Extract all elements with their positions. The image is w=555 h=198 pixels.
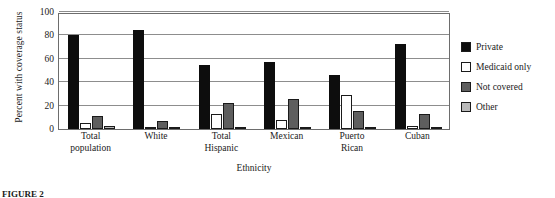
x-axis-tick-label: Mexican xyxy=(254,131,319,143)
x-axis-tick-label: TotalHispanic xyxy=(189,131,254,154)
bar-other xyxy=(235,127,246,129)
y-axis-title: Percent with coverage status xyxy=(14,2,24,132)
x-axis-tick-label-line: Total xyxy=(189,131,254,143)
bar-notcovered xyxy=(223,103,234,129)
bar-private xyxy=(133,30,144,129)
x-axis-title: Ethnicity xyxy=(58,163,450,173)
bar-group xyxy=(386,14,451,129)
bar-group xyxy=(255,14,320,129)
plot-area xyxy=(58,13,450,130)
legend-swatch-other xyxy=(461,102,471,112)
x-axis-tick-label-line: White xyxy=(123,131,188,143)
y-axis-tick-label: 100 xyxy=(30,8,54,18)
y-axis-tick-labels: 020406080100 xyxy=(26,13,54,130)
bar-notcovered xyxy=(353,111,364,129)
bar-group xyxy=(124,14,189,129)
y-axis-tick-label: 0 xyxy=(30,125,54,135)
bar-other xyxy=(365,127,376,129)
bar-medicaid xyxy=(145,127,156,129)
legend-item-private: Private xyxy=(461,38,555,55)
x-axis-tick-label: Cuban xyxy=(385,131,450,143)
x-axis-tick-label-line: Hispanic xyxy=(189,143,254,155)
legend-label-medicaid: Medicaid only xyxy=(476,62,531,72)
legend-swatch-notcovered xyxy=(461,82,471,92)
bar-medicaid xyxy=(341,95,352,129)
legend-label-notcovered: Not covered xyxy=(476,82,523,92)
legend-label-other: Other xyxy=(476,102,498,112)
legend-label-private: Private xyxy=(476,42,503,52)
x-axis-tick-label: Totalpopulation xyxy=(58,131,123,154)
bar-notcovered xyxy=(288,99,299,129)
bar-medicaid xyxy=(407,126,418,130)
x-axis-tick-label: White xyxy=(123,131,188,143)
bar-medicaid xyxy=(80,123,91,129)
x-axis-tick-label-line: Cuban xyxy=(385,131,450,143)
x-axis-tick-label-line: population xyxy=(58,143,123,155)
bar-private xyxy=(329,75,340,129)
bar-group xyxy=(190,14,255,129)
x-axis-tick-label-line: Mexican xyxy=(254,131,319,143)
bar-notcovered xyxy=(157,121,168,129)
bar-medicaid xyxy=(211,114,222,129)
legend-swatch-private xyxy=(461,42,471,52)
y-axis-tick-label: 80 xyxy=(30,32,54,42)
x-axis-tick-label-line: Total xyxy=(58,131,123,143)
y-axis-tick-label: 60 xyxy=(30,55,54,65)
bar-private xyxy=(68,35,79,129)
x-axis-tick-labels: TotalpopulationWhiteTotalHispanicMexican… xyxy=(58,131,450,165)
legend-swatch-medicaid xyxy=(461,62,471,72)
bar-medicaid xyxy=(276,120,287,129)
figure-container: Percent with coverage status 02040608010… xyxy=(0,0,555,198)
bar-private xyxy=(264,62,275,129)
legend-item-other: Other xyxy=(461,98,555,115)
chart-legend: PrivateMedicaid onlyNot coveredOther xyxy=(461,38,555,118)
gridline xyxy=(59,11,449,12)
bar-other xyxy=(300,127,311,129)
bar-other xyxy=(104,126,115,130)
x-axis-tick-label: PuertoRican xyxy=(319,131,384,154)
bar-private xyxy=(199,65,210,129)
y-axis-tick-label: 40 xyxy=(30,78,54,88)
y-axis-tick-label: 20 xyxy=(30,102,54,112)
x-axis-tick-label-line: Rican xyxy=(319,143,384,155)
bar-other xyxy=(169,127,180,129)
bar-group xyxy=(320,14,385,129)
legend-item-medicaid: Medicaid only xyxy=(461,58,555,75)
bar-private xyxy=(395,44,406,129)
bar-other xyxy=(431,127,442,129)
figure-caption: FIGURE 2 xyxy=(2,189,44,198)
bar-group xyxy=(59,14,124,129)
bar-notcovered xyxy=(92,116,103,129)
legend-item-notcovered: Not covered xyxy=(461,78,555,95)
bar-notcovered xyxy=(419,114,430,129)
x-axis-tick-label-line: Puerto xyxy=(319,131,384,143)
